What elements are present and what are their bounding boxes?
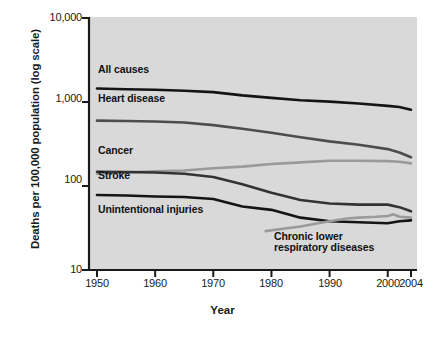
x-tick-label-1990: 1990: [300, 277, 360, 289]
x-tick-label-1980: 1980: [241, 277, 301, 289]
x-tick-label-1960: 1960: [125, 277, 185, 289]
y-tick-label-100: 100: [20, 173, 82, 185]
series-label-heart-disease: Heart disease: [98, 92, 165, 104]
plot-area: [89, 17, 417, 270]
series-label-all-causes: All causes: [98, 63, 149, 75]
y-axis-title: Deaths per 100,000 population (log scale…: [29, 4, 41, 274]
x-tick-label-2004: 2004: [381, 277, 441, 289]
y-tick-label-10: 10: [20, 263, 82, 275]
x-axis-title: Year: [0, 304, 445, 316]
chart-figure: Deaths per 100,000 population (log scale…: [0, 0, 445, 338]
series-label-stroke: Stroke: [98, 169, 130, 181]
x-tick-label-1950: 1950: [67, 277, 127, 289]
y-tick-label-1000: 1,000: [20, 92, 82, 104]
y-tick-label-10000: 10,000: [20, 11, 82, 23]
series-label-cancer: Cancer: [98, 144, 133, 156]
series-label-unintentional-injuries: Unintentional injuries: [98, 203, 203, 215]
x-tick-label-1970: 1970: [183, 277, 243, 289]
series-label-clrd-line2: respiratory diseases: [274, 241, 374, 253]
